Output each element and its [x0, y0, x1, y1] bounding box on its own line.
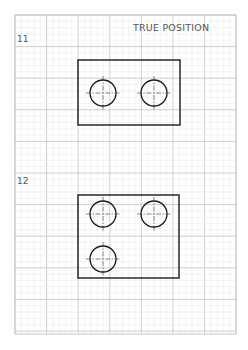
- grid-border: [15, 15, 236, 334]
- drawing-sheet: TRUE POSITION 1112: [0, 0, 248, 350]
- problems-layer: 1112: [17, 34, 180, 278]
- problem-11: 11: [17, 34, 180, 125]
- graph-paper-grid: [15, 15, 236, 334]
- sheet-title: TRUE POSITION: [132, 22, 209, 33]
- problem-12: 12: [17, 176, 179, 278]
- problem-number: 12: [17, 176, 28, 186]
- problem-number: 11: [17, 34, 28, 44]
